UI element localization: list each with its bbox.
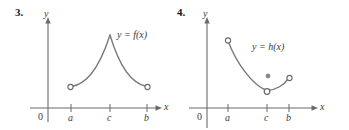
figure-3-x-axis-label: x	[164, 101, 168, 112]
figure-4-tick-label-b: b	[286, 112, 291, 123]
figure-4-open-circle-b	[287, 75, 292, 80]
figure-4-y-axis-label: y	[203, 8, 207, 19]
figure-4-tick-label-c: c	[264, 112, 268, 123]
figure-4-filled-point	[266, 74, 271, 79]
figure-3-plot	[0, 0, 175, 130]
figure-4-open-circle-c	[264, 89, 270, 95]
figure-3-tick-label-c: c	[107, 112, 111, 123]
figure-4-curve-label: y = h(x)	[252, 41, 284, 52]
figure-3-open-circle-a	[68, 84, 73, 89]
figure-4-x-axis-label: x	[320, 101, 324, 112]
figure-3-tick-label-b: b	[144, 112, 149, 123]
figure-3-origin-label: 0	[38, 111, 43, 122]
figure-3-curve-left	[72, 35, 111, 87]
figure-3-open-circle-b	[145, 84, 150, 89]
figure-3-tick-label-a: a	[68, 112, 73, 123]
figure-4-tick-label-a: a	[225, 112, 230, 123]
figure-3-y-axis-label: y	[44, 8, 48, 19]
figure-4: 4. y x 0 a c b y = h(x)	[174, 0, 349, 130]
figure-4-open-circle-a	[225, 38, 230, 43]
figure-page: 3. y x 0 a c b y = f(x) 4.	[0, 0, 349, 130]
figure-3-curve-label: y = f(x)	[117, 29, 147, 40]
figure-4-x-axis-arrow	[312, 105, 319, 110]
figure-3: 3. y x 0 a c b y = f(x)	[0, 0, 175, 130]
figure-4-curve-right	[268, 79, 289, 91]
figure-3-x-axis-arrow	[156, 105, 163, 110]
figure-3-curve-right	[110, 35, 147, 87]
figure-4-origin-label: 0	[197, 111, 202, 122]
